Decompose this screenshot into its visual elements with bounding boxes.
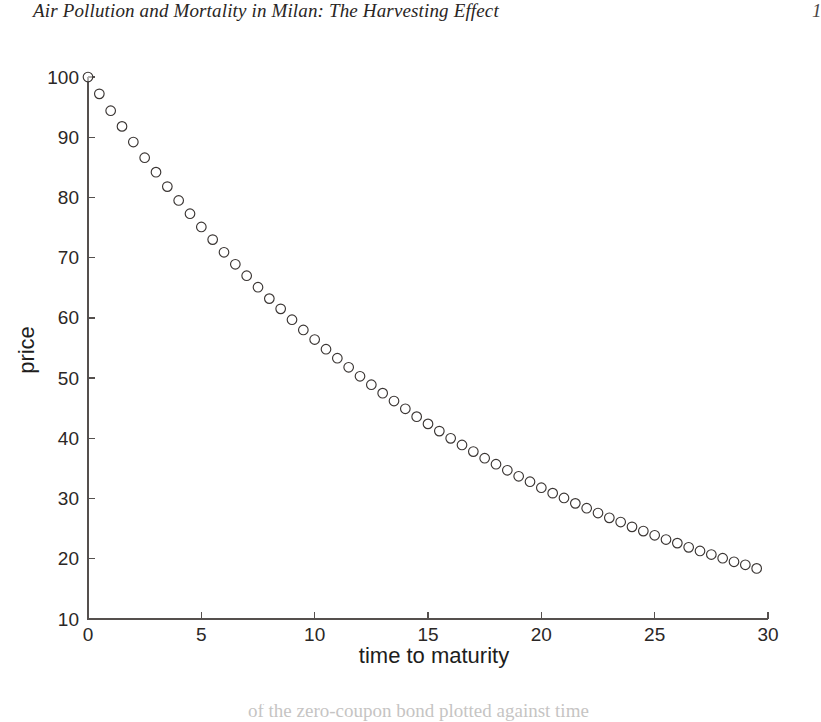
data-point [548, 488, 558, 498]
x-tick-label-10: 10 [304, 624, 325, 645]
data-point [287, 315, 297, 325]
data-point [185, 209, 195, 219]
data-point [117, 122, 127, 132]
data-point [129, 137, 139, 147]
x-tick-labels: 051015202530 [83, 624, 779, 645]
data-point [355, 372, 365, 382]
y-tick-label-70: 70 [58, 247, 79, 268]
x-tick-label-0: 0 [83, 624, 94, 645]
page-number: 1 [812, 0, 821, 22]
data-point [684, 543, 694, 553]
data-point [559, 493, 569, 503]
data-point [95, 89, 105, 99]
data-point [83, 72, 93, 82]
data-point [151, 167, 161, 177]
data-point [253, 282, 263, 292]
caption-cutoff-text: of the zero-coupon bond plotted against … [248, 704, 589, 722]
data-point [367, 380, 377, 390]
scatter-plot: 102030405060708090100 051015202530 time … [0, 30, 821, 690]
y-tick-label-30: 30 [58, 488, 79, 509]
data-point [197, 222, 207, 232]
x-tick-label-20: 20 [531, 624, 552, 645]
data-point [695, 546, 705, 556]
x-tick-label-25: 25 [644, 624, 665, 645]
data-point [140, 153, 150, 163]
y-tick-label-80: 80 [58, 187, 79, 208]
running-head: Air Pollution and Mortality in Milan: Th… [0, 0, 821, 30]
data-point [242, 271, 252, 281]
x-tick-label-5: 5 [196, 624, 207, 645]
y-tick-label-40: 40 [58, 428, 79, 449]
data-point [673, 538, 683, 548]
data-point [593, 508, 603, 518]
data-point [650, 530, 660, 540]
data-point [525, 477, 535, 487]
data-markers [83, 72, 761, 573]
y-tick-label-90: 90 [58, 127, 79, 148]
data-point [503, 465, 513, 475]
data-point [163, 182, 173, 192]
data-point [537, 483, 547, 493]
data-point [616, 517, 626, 527]
data-point [106, 106, 116, 116]
data-point [435, 426, 445, 436]
data-point [457, 440, 467, 450]
x-tick-label-15: 15 [417, 624, 438, 645]
data-point [605, 513, 615, 523]
y-tick-labels: 102030405060708090100 [47, 67, 79, 630]
data-point [718, 553, 728, 563]
data-point [491, 459, 501, 469]
data-point [389, 396, 399, 406]
data-point [174, 196, 184, 206]
data-point [582, 503, 592, 513]
data-point [310, 335, 320, 345]
y-tick-label-20: 20 [58, 548, 79, 569]
data-point [752, 564, 762, 574]
y-tick-label-60: 60 [58, 307, 79, 328]
data-point [333, 353, 343, 363]
y-tick-label-10: 10 [58, 609, 79, 630]
data-point [571, 499, 581, 509]
data-point [729, 557, 739, 567]
data-point [219, 247, 229, 257]
data-point [469, 447, 479, 457]
data-point [344, 362, 354, 372]
data-point [208, 235, 218, 245]
data-point [514, 471, 524, 481]
data-point [265, 294, 275, 304]
data-point [661, 535, 671, 545]
data-point [446, 434, 456, 444]
data-point [707, 550, 717, 560]
data-point [231, 259, 241, 269]
x-axis-title: time to maturity [359, 643, 509, 668]
data-point [423, 419, 433, 429]
data-point [299, 325, 309, 335]
y-axis-title: price [14, 326, 39, 374]
caption-cutoff: of the zero-coupon bond plotted against … [0, 704, 821, 722]
x-tick-label-30: 30 [757, 624, 778, 645]
y-tick-label-50: 50 [58, 368, 79, 389]
data-point [627, 522, 637, 532]
data-point [741, 560, 751, 570]
data-point [412, 412, 422, 422]
data-point [276, 304, 286, 314]
data-point [378, 388, 388, 398]
figure-chart: 102030405060708090100 051015202530 time … [0, 30, 821, 690]
data-point [639, 526, 649, 536]
running-head-title: Air Pollution and Mortality in Milan: Th… [33, 0, 499, 22]
data-point [321, 344, 331, 354]
data-point [401, 404, 411, 414]
y-tick-label-100: 100 [47, 67, 79, 88]
data-point [480, 453, 490, 463]
